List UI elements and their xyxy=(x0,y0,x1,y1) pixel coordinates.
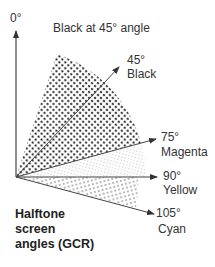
caption-line-3: angles (GCR) xyxy=(15,237,94,252)
angle-label-45: 45° xyxy=(127,54,145,67)
color-label-yellow: Yellow xyxy=(163,184,197,197)
color-label-cyan: Cyan xyxy=(158,223,186,236)
diagram-title: Black at 45° angle xyxy=(53,22,150,35)
caption-line-1: Halftone xyxy=(15,207,94,222)
diagram-caption: Halftone screen angles (GCR) xyxy=(15,207,94,252)
angle-label-75: 75° xyxy=(161,131,179,144)
caption-line-2: screen xyxy=(15,222,94,237)
angle-label-105: 105° xyxy=(156,207,181,220)
angle-label-90: 90° xyxy=(163,170,181,183)
color-label-magenta: Magenta xyxy=(161,146,208,159)
zero-degree-label: 0° xyxy=(10,12,21,25)
color-label-black: Black xyxy=(127,68,156,81)
